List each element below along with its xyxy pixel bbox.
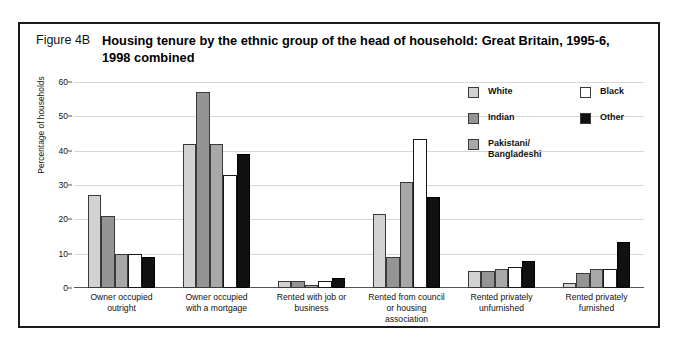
y-tick-mark bbox=[68, 253, 72, 254]
legend-item: Pakistani/ Bangladeshi bbox=[468, 138, 542, 159]
bar bbox=[115, 254, 129, 288]
y-tick-mark bbox=[68, 288, 72, 289]
y-tick-label: 50 bbox=[46, 111, 68, 121]
bar bbox=[386, 257, 400, 288]
figure-title: Housing tenure by the ethnic group of th… bbox=[102, 32, 632, 66]
bar bbox=[522, 261, 536, 288]
x-axis-label: Rented privately furnished bbox=[541, 292, 652, 314]
bar bbox=[101, 216, 115, 288]
legend-label: Other bbox=[600, 112, 624, 123]
bar bbox=[468, 271, 482, 288]
bar bbox=[183, 144, 197, 288]
legend-swatch bbox=[468, 139, 479, 150]
chart-legend: WhiteIndianPakistani/ BangladeshiBlackOt… bbox=[468, 86, 664, 164]
legend-swatch bbox=[580, 87, 591, 98]
y-tick-mark bbox=[68, 219, 72, 220]
bar bbox=[617, 242, 631, 288]
bar bbox=[210, 144, 224, 288]
x-axis-labels: Owner occupied outrightOwner occupied wi… bbox=[74, 292, 644, 332]
legend-label: White bbox=[488, 86, 513, 97]
bar-group bbox=[169, 82, 264, 288]
bar bbox=[481, 271, 495, 288]
bar bbox=[373, 214, 387, 288]
legend-label: Pakistani/ Bangladeshi bbox=[488, 138, 542, 159]
bar-group bbox=[359, 82, 454, 288]
legend-item: White bbox=[468, 86, 513, 98]
bar bbox=[576, 273, 590, 288]
y-tick-label: 0 bbox=[46, 283, 68, 293]
y-tick-mark bbox=[68, 82, 72, 83]
y-axis-title: Percentage of households bbox=[36, 40, 46, 210]
bar bbox=[332, 278, 346, 288]
y-tick-label: 10 bbox=[46, 249, 68, 259]
bar bbox=[237, 154, 251, 288]
bar-group bbox=[74, 82, 169, 288]
y-tick-label: 30 bbox=[46, 180, 68, 190]
legend-swatch bbox=[468, 87, 479, 98]
legend-swatch bbox=[580, 113, 591, 124]
bar bbox=[590, 269, 604, 288]
bar bbox=[278, 281, 292, 288]
y-tick-label: 60 bbox=[46, 77, 68, 87]
bar bbox=[291, 281, 305, 288]
bar bbox=[603, 269, 617, 288]
legend-item: Indian bbox=[468, 112, 515, 124]
bar bbox=[413, 139, 427, 288]
y-tick-mark bbox=[68, 185, 72, 186]
y-tick-mark bbox=[68, 116, 72, 117]
legend-label: Black bbox=[600, 86, 624, 97]
bar bbox=[495, 269, 509, 288]
legend-label: Indian bbox=[488, 112, 515, 123]
bar bbox=[223, 175, 237, 288]
bar bbox=[142, 257, 156, 288]
bar bbox=[400, 182, 414, 288]
bar bbox=[427, 197, 441, 288]
bar bbox=[318, 281, 332, 288]
bar bbox=[305, 285, 319, 288]
bar bbox=[128, 254, 142, 288]
y-tick-label: 20 bbox=[46, 214, 68, 224]
figure-frame: Figure 4B Housing tenure by the ethnic g… bbox=[18, 22, 660, 328]
legend-item: Other bbox=[580, 112, 624, 124]
bar bbox=[563, 283, 577, 288]
bar-group bbox=[264, 82, 359, 288]
legend-item: Black bbox=[580, 86, 624, 98]
bar bbox=[196, 92, 210, 288]
legend-swatch bbox=[468, 113, 479, 124]
bar bbox=[508, 267, 522, 288]
bar bbox=[88, 195, 102, 288]
y-tick-mark bbox=[68, 150, 72, 151]
y-tick-label: 40 bbox=[46, 146, 68, 156]
